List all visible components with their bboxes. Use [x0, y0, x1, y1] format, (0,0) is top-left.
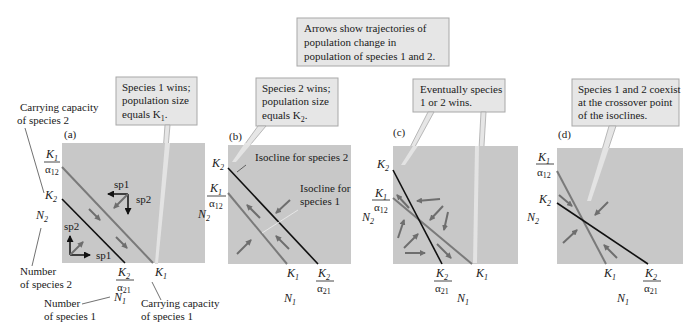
svg-text:K2: K2	[44, 188, 57, 204]
panel-c-label: (c)	[393, 126, 406, 139]
svg-text:Carrying capacity: Carrying capacity	[141, 297, 220, 309]
svg-text:at the crossover point: at the crossover point	[578, 96, 672, 108]
svg-text:of the isoclines.: of the isoclines.	[578, 109, 648, 121]
svg-text:N1: N1	[456, 291, 469, 307]
svg-text:population size: population size	[122, 94, 189, 106]
svg-text:sp1: sp1	[96, 249, 111, 261]
svg-text:Species 1 and 2 coexist: Species 1 and 2 coexist	[578, 83, 681, 95]
svg-text:K1: K1	[475, 266, 488, 282]
svg-text:of species 2: of species 2	[20, 278, 72, 290]
panel-d-label: (d)	[558, 128, 571, 141]
panel-a-y-labels: K1 α12 K2 N2	[35, 147, 60, 224]
header-callout: Arrows show trajectories of population c…	[297, 18, 449, 66]
svg-text:Number: Number	[44, 297, 80, 309]
svg-text:Carrying capacity: Carrying capacity	[20, 101, 99, 113]
svg-text:α12: α12	[537, 166, 551, 180]
svg-text:Number: Number	[20, 265, 56, 277]
header-line-3: population of species 1 and 2.	[304, 50, 436, 62]
svg-text:Eventually species: Eventually species	[420, 83, 502, 95]
svg-text:sp2: sp2	[64, 220, 79, 232]
svg-text:K2: K2	[538, 192, 551, 208]
svg-text:K1: K1	[154, 265, 167, 281]
svg-text:1 or 2 wins.: 1 or 2 wins.	[420, 96, 472, 108]
svg-text:α21: α21	[317, 282, 331, 296]
header-line-1: Arrows show trajectories of	[304, 22, 427, 34]
svg-text:α21: α21	[435, 282, 449, 296]
panel-b-label: (b)	[229, 130, 242, 143]
panel-a-label: (a)	[64, 128, 77, 141]
svg-text:N2: N2	[361, 210, 374, 226]
svg-text:N2: N2	[197, 207, 210, 223]
svg-text:Species 2 wins;: Species 2 wins;	[262, 82, 330, 94]
svg-text:α12: α12	[45, 163, 59, 177]
svg-text:K2: K2	[644, 266, 657, 282]
svg-text:α12: α12	[374, 201, 388, 215]
panel-a: Species 1 wins; population size equals K…	[17, 77, 220, 322]
lotka-volterra-competition-figure: Arrows show trajectories of population c…	[0, 0, 699, 332]
svg-text:K2: K2	[211, 156, 224, 172]
svg-text:N1: N1	[616, 291, 629, 307]
svg-text:sp1: sp1	[114, 178, 129, 190]
panel-b: Species 2 wins; population size equals K…	[197, 78, 351, 307]
svg-text:population size: population size	[262, 95, 329, 107]
svg-text:Species 1 wins;: Species 1 wins;	[122, 81, 190, 93]
svg-text:K1: K1	[603, 266, 616, 282]
svg-text:species 1: species 1	[300, 195, 340, 207]
header-line-2: population change in	[304, 36, 397, 48]
panel-b-isocline2-label: Isocline for species 2	[255, 151, 348, 163]
svg-text:K2: K2	[376, 157, 389, 173]
panel-b-isocline1-label-a: Isocline for	[300, 182, 351, 194]
svg-text:N1: N1	[283, 291, 296, 307]
svg-text:K2: K2	[435, 266, 448, 282]
svg-text:N2: N2	[526, 210, 539, 226]
svg-text:α21: α21	[644, 282, 658, 296]
svg-text:K1: K1	[286, 266, 299, 282]
svg-text:sp2: sp2	[136, 193, 151, 205]
panel-a-plot-area	[62, 143, 205, 263]
svg-text:of species 2: of species 2	[17, 114, 69, 126]
panel-c: Eventually species 1 or 2 wins. (c) K2 K…	[361, 79, 518, 307]
panel-d: Species 1 and 2 coexist at the crossover…	[526, 79, 683, 307]
svg-text:K2: K2	[117, 265, 130, 281]
svg-text:K2: K2	[317, 266, 330, 282]
svg-text:K1: K1	[45, 147, 58, 163]
svg-text:of species 1: of species 1	[44, 310, 96, 322]
svg-text:α12: α12	[209, 197, 223, 211]
svg-text:K1: K1	[209, 181, 222, 197]
svg-text:of species 1: of species 1	[141, 310, 193, 322]
svg-text:N2: N2	[35, 208, 48, 224]
